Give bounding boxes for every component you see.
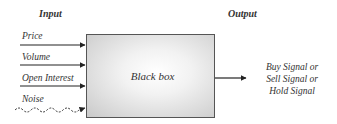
output-line-hold: Hold Signal xyxy=(248,85,336,97)
black-box: Black box xyxy=(86,34,215,118)
output-line-buy: Buy Signal or xyxy=(248,61,336,73)
black-box-label: Black box xyxy=(131,70,175,82)
output-line-sell: Sell Signal or xyxy=(248,73,336,85)
output-signals: Buy Signal or Sell Signal or Hold Signal xyxy=(248,61,336,97)
noise-arrow xyxy=(15,108,85,112)
